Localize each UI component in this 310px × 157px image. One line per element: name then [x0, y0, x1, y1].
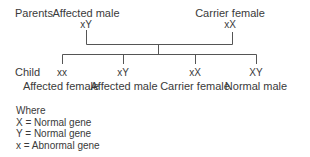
parent-connector — [87, 30, 233, 45]
child-4-genotype: XY — [249, 67, 262, 79]
legend-item: x = Abnormal gene — [16, 140, 100, 152]
child-1-label: Affected female — [23, 80, 99, 92]
legend-item: Y = Normal gene — [16, 128, 100, 140]
legend: Where X = Normal gene Y = Normal gene x … — [16, 105, 100, 151]
child-1-genotype: xx — [57, 67, 67, 79]
parents-row-label: Parents — [15, 7, 53, 19]
child-3-label: Carrier female — [160, 80, 230, 92]
father-genotype: xY — [80, 19, 92, 31]
child-row-label: Child — [15, 66, 40, 78]
child-3-genotype: xX — [189, 67, 201, 79]
mother-label: Carrier female — [195, 7, 265, 19]
child-2-genotype: xY — [117, 67, 129, 79]
mother-genotype: xX — [224, 19, 236, 31]
legend-item: X = Normal gene — [16, 117, 100, 129]
child-2-label: Affected male — [90, 80, 157, 92]
father-label: Affected male — [52, 7, 119, 19]
legend-heading: Where — [16, 105, 100, 117]
child-4-label: Normal male — [225, 80, 287, 92]
